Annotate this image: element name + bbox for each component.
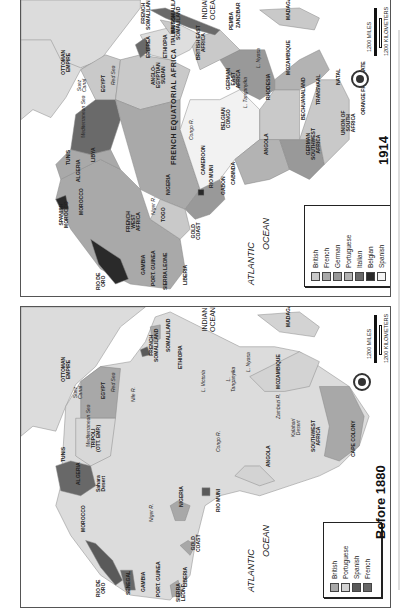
map-label: GABON	[221, 176, 226, 195]
legend-swatch-spanish	[377, 272, 386, 281]
legend-swatch-german	[333, 272, 342, 281]
scale-km-label: 1200 KILOMETERS	[383, 314, 389, 363]
legend-label-portuguese: Portuguese	[342, 546, 349, 579]
map-label: UNION OF SOUTH AFRICA	[341, 111, 356, 135]
legend-swatch-british	[311, 272, 320, 281]
map-label: TOGO	[161, 207, 166, 222]
map-label: Congo R.	[216, 431, 221, 452]
map-label: INDIAN OCEAN	[201, 307, 217, 332]
legend-label-italian: Italian	[356, 251, 363, 268]
map-label: ANGOLA	[264, 133, 269, 155]
map-label: RIO DE ORO	[96, 580, 106, 597]
map-label: Red Sea	[111, 66, 116, 85]
map-label: TUNIS	[66, 150, 71, 165]
map-label: TUNIS	[61, 447, 66, 462]
map-label: OTTOMAN EMPIRE	[61, 357, 71, 382]
scale-bar-1880: 1200 MILES 1200 KILOMETERS	[366, 315, 386, 365]
map-label: ETHIOPIA	[178, 345, 183, 369]
map-label: L. Tanganyika	[243, 77, 248, 108]
map-label: SIERRA LEONE	[163, 253, 168, 290]
legend-label-british: British	[331, 561, 338, 579]
map-label: Congo R.	[189, 119, 194, 140]
map-title-before-1880: Before 1880	[373, 465, 388, 539]
legend-label-belgian: Belgian	[367, 246, 374, 268]
map-label: ATLANTIC	[246, 549, 256, 592]
map-label: MOROCCO	[81, 505, 86, 532]
map-label: Sahara Desert	[96, 475, 106, 492]
map-label: GAMBIA	[141, 255, 146, 275]
map-label: OTTOMAN EMPIRE	[61, 50, 71, 75]
map-label: GERMAN SOUTHWEST AFRICA	[306, 128, 321, 160]
map-label: L. Tanganyika	[226, 367, 236, 392]
legend-swatch-belgian	[366, 272, 375, 281]
legend-label-british: British	[312, 250, 319, 268]
compass-rose-icon	[351, 70, 369, 88]
legend-swatch-portuguese	[344, 272, 353, 281]
map-label: Zambezi R.	[276, 393, 281, 419]
map-label: FRENCH SOMALILAND	[149, 329, 159, 362]
scale-km-label: 1200 KILOMETERS	[383, 7, 389, 56]
map-label: MOROCCO	[79, 188, 84, 215]
map-label: MOZAMBIQUE	[286, 40, 291, 75]
map-label: OCEAN	[261, 525, 271, 557]
map-label: FRENCH SOMALILAND	[141, 0, 151, 30]
map-label: RHODESIA	[266, 74, 271, 100]
scale-bar-1914: 1200 MILES 1200 KILOMETERS	[366, 8, 386, 58]
map-label: PEMBA	[229, 12, 234, 30]
map-label: SOUTHWEST AFRICA	[311, 420, 321, 452]
map-label: Red Sea	[111, 373, 116, 392]
map-label: ALGERIA	[76, 463, 81, 486]
map-label: NATAL	[336, 69, 341, 85]
map-label: GOLD COAST	[191, 535, 201, 553]
map-label: GAMBIA	[141, 572, 146, 592]
map-label: GOLD COAST	[191, 223, 201, 241]
map-label: BELGIAN CONGO	[221, 108, 231, 131]
legend-swatch-portuguese	[341, 583, 350, 592]
map-panel-1914: OTTOMAN EMPIRERed SeaSuez CanalERITREAFR…	[20, 0, 391, 297]
map-label: Nile R.	[131, 387, 136, 402]
map-label: TRANSVAAL	[316, 75, 321, 105]
map-title-1914: 1914	[376, 136, 391, 165]
legend-swatch-french	[322, 272, 331, 281]
map-label: ATLANTIC	[246, 242, 256, 285]
map-label: RIO DE ORO	[96, 273, 106, 290]
map-label: Suez Canal	[77, 79, 87, 92]
map-label: ANGOLA	[266, 445, 271, 467]
map-label: BRITISH EAST AFRICA	[196, 25, 206, 60]
map-label: TRIPOLI (OTT. EMP.)	[91, 425, 101, 452]
map-label: ERITREA	[146, 36, 151, 58]
map-label: Suez Canal	[73, 386, 83, 399]
page-margin-text	[398, 30, 400, 590]
map-label: L. Victoria	[201, 370, 206, 392]
region-rio-muni	[202, 488, 210, 496]
scale-miles-label: 1200 MILES	[366, 22, 372, 52]
map-label: MADAGASCAR	[286, 0, 291, 20]
legend-label-german: German	[334, 245, 341, 268]
map-label: ALGERIA	[76, 160, 81, 183]
map-label: INDIAN OCEAN	[201, 0, 217, 20]
map-label: Kalahari Desert	[291, 419, 301, 437]
legend-swatch-spanish	[352, 583, 361, 592]
map-label: Niger R.	[151, 197, 156, 215]
map-label: LIBYA	[91, 147, 96, 162]
map-label: NIGERIA	[166, 174, 171, 195]
map-label: EGYPT	[101, 75, 106, 92]
legend-label-french: French	[364, 559, 371, 579]
map-label: SOMALILAND	[166, 319, 171, 352]
legend-label-spanish: Spanish	[353, 556, 360, 580]
legend-1914: BritishFrenchGermanPortugueseItalianBelg…	[304, 205, 391, 287]
map-label: ANGLO- EGYPTIAN SUDAN	[151, 62, 166, 88]
legend-swatch-british	[330, 583, 339, 592]
map-label: NIGERIA	[179, 486, 184, 507]
map-label: SENEGAL	[126, 571, 131, 595]
map-label: RIO MUNI	[216, 489, 221, 512]
map-label: EGYPT	[101, 382, 106, 399]
map-label: FRENCH WEST AFRICA	[126, 211, 141, 232]
map-label: OCEAN	[261, 218, 271, 250]
map-label: Mediterranean Sea	[81, 95, 86, 138]
map-label: RIO MUNI	[209, 165, 214, 188]
map-label: PORT. GUINEA	[151, 250, 156, 286]
scale-miles-label: 1200 MILES	[366, 329, 372, 359]
map-label: BRITISH SOMALILAND	[171, 7, 181, 40]
map-label: PORT. GUINEA	[156, 561, 161, 597]
